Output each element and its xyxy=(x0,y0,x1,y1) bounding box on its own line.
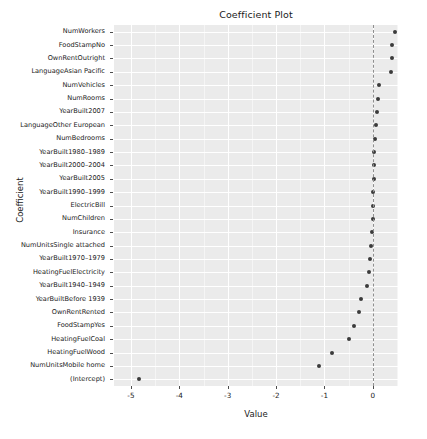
y-tick-label: FoodStampYes xyxy=(57,322,105,329)
gridline-horizontal-major xyxy=(114,286,398,287)
data-point xyxy=(389,70,393,74)
gridline-horizontal-major xyxy=(114,45,398,46)
y-tick-mark xyxy=(110,379,113,380)
gridline-horizontal-major xyxy=(114,246,398,247)
x-tick-label: 0 xyxy=(361,391,385,400)
data-point xyxy=(317,364,321,368)
data-point xyxy=(357,310,361,314)
gridline-horizontal-major xyxy=(114,179,398,180)
y-tick-label: YearBuilt2000–2004 xyxy=(39,162,105,169)
y-tick-mark xyxy=(110,139,113,140)
y-tick-label: NumUnitsSingle attached xyxy=(21,242,105,249)
gridline-horizontal-major xyxy=(114,165,398,166)
y-axis-title: Coefficient xyxy=(15,160,25,240)
x-tick-label: -3 xyxy=(216,391,240,400)
y-tick-mark xyxy=(110,312,113,313)
y-tick-label: NumBedrooms xyxy=(56,135,105,142)
y-tick-label: HeatingFuelElectricity xyxy=(33,269,105,276)
data-point xyxy=(352,324,356,328)
data-point xyxy=(367,270,371,274)
gridline-horizontal-major xyxy=(114,192,398,193)
y-tick-label: YearBuilt1940–1949 xyxy=(39,282,105,289)
data-point xyxy=(374,123,378,127)
x-tick-label: -2 xyxy=(264,391,288,400)
data-point xyxy=(393,30,397,34)
x-tick-mark xyxy=(179,386,180,389)
y-tick-label: (Intercept) xyxy=(70,376,105,383)
y-tick-mark xyxy=(110,58,113,59)
data-point xyxy=(359,297,363,301)
y-tick-mark xyxy=(110,339,113,340)
y-tick-label: YearBuilt1970–1979 xyxy=(39,255,105,262)
y-tick-mark xyxy=(110,125,113,126)
y-tick-label: LanguageOther European xyxy=(20,122,105,129)
gridline-horizontal-major xyxy=(114,206,398,207)
y-tick-mark xyxy=(110,99,113,100)
x-tick-mark xyxy=(373,386,374,389)
gridline-horizontal-major xyxy=(114,32,398,33)
y-tick-mark xyxy=(110,246,113,247)
gridline-horizontal-major xyxy=(114,112,398,113)
data-point xyxy=(368,257,372,261)
gridline-horizontal-major xyxy=(114,58,398,59)
y-tick-label: YearBuiltBefore 1939 xyxy=(36,296,105,303)
y-tick-label: NumWorkers xyxy=(63,28,105,35)
y-tick-label: NumUnitsMobile home xyxy=(30,362,105,369)
x-tick-mark xyxy=(324,386,325,389)
y-tick-label: YearBuilt2005 xyxy=(59,175,105,182)
plot-title: Coefficient Plot xyxy=(114,9,398,20)
y-tick-label: OwnRentRented xyxy=(52,309,105,316)
y-tick-mark xyxy=(110,192,113,193)
y-tick-mark xyxy=(110,286,113,287)
plot-panel xyxy=(114,25,398,386)
y-tick-label: NumChildren xyxy=(62,215,105,222)
y-tick-mark xyxy=(110,165,113,166)
x-tick-label: -1 xyxy=(312,391,336,400)
gridline-horizontal-major xyxy=(114,232,398,233)
gridline-horizontal-major xyxy=(114,85,398,86)
data-point xyxy=(390,56,394,60)
gridline-horizontal-major xyxy=(114,339,398,340)
y-tick-mark xyxy=(110,366,113,367)
y-tick-mark xyxy=(110,32,113,33)
y-tick-label: NumVehicles xyxy=(62,82,105,89)
y-tick-mark xyxy=(110,72,113,73)
y-tick-mark xyxy=(110,232,113,233)
y-tick-label: YearBuilt1980–1989 xyxy=(39,149,105,156)
x-tick-label: -4 xyxy=(167,391,191,400)
x-tick-mark xyxy=(131,386,132,389)
data-point xyxy=(137,377,141,381)
y-tick-label: LanguageAsian Pacific xyxy=(31,68,105,75)
data-point xyxy=(365,284,369,288)
y-tick-mark xyxy=(110,85,113,86)
y-tick-label: YearBuilt2007 xyxy=(59,108,105,115)
y-tick-mark xyxy=(110,179,113,180)
gridline-horizontal-major xyxy=(114,312,398,313)
x-axis-title: Value xyxy=(114,409,398,419)
y-tick-mark xyxy=(110,206,113,207)
data-point xyxy=(390,43,394,47)
y-tick-label: OwnRentOutright xyxy=(48,55,105,62)
y-tick-mark xyxy=(110,326,113,327)
gridline-horizontal-major xyxy=(114,72,398,73)
data-point xyxy=(347,337,351,341)
y-tick-mark xyxy=(110,353,113,354)
y-tick-mark xyxy=(110,112,113,113)
y-tick-label: ElectricBill xyxy=(71,202,105,209)
y-tick-label: HeatingFuelWood xyxy=(47,349,105,356)
y-tick-label: HeatingFuelCoal xyxy=(51,336,105,343)
y-tick-mark xyxy=(110,152,113,153)
y-tick-label: NumRooms xyxy=(67,95,105,102)
y-tick-mark xyxy=(110,272,113,273)
gridline-horizontal-major xyxy=(114,379,398,380)
zero-reference-line xyxy=(373,25,374,386)
y-tick-mark xyxy=(110,299,113,300)
y-tick-mark xyxy=(110,259,113,260)
gridline-horizontal-major xyxy=(114,99,398,100)
gridline-horizontal-major xyxy=(114,125,398,126)
x-tick-mark xyxy=(228,386,229,389)
coefficient-plot: Coefficient Plot Coefficient Value NumWo… xyxy=(0,0,427,439)
x-tick-mark xyxy=(276,386,277,389)
y-tick-label: FoodStampNo xyxy=(59,42,105,49)
gridline-horizontal-major xyxy=(114,152,398,153)
